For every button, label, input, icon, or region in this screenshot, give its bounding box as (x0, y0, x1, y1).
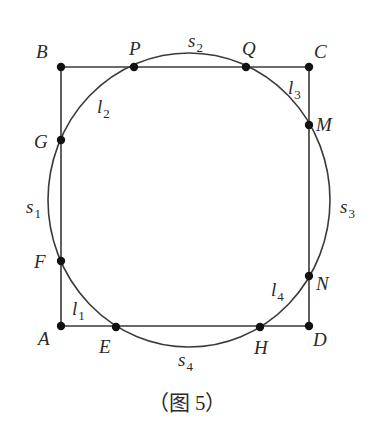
label-s2: s2 (188, 30, 203, 55)
segment-labels: l1l2l3l4s1s2s3s4 (26, 30, 355, 374)
point-b (57, 63, 65, 71)
point-n (305, 272, 313, 280)
point-f (57, 257, 65, 265)
label-s1: s1 (26, 196, 41, 221)
point-q (242, 63, 250, 71)
label-q: Q (242, 38, 256, 59)
figure-caption: （图 5） (148, 391, 227, 415)
point-e (112, 323, 120, 331)
geometry-diagram: ABCDPQGFMNEH l1l2l3l4s1s2s3s4 （图 5） (0, 0, 374, 432)
label-d: D (312, 329, 327, 350)
label-s4: s4 (178, 349, 193, 374)
point-a (57, 322, 65, 330)
label-g: G (34, 131, 48, 152)
label-s3: s3 (340, 196, 355, 221)
point-h (256, 323, 264, 331)
point-m (305, 121, 313, 129)
label-e: E (98, 336, 111, 357)
label-n: N (315, 273, 330, 294)
label-f: F (33, 251, 46, 272)
point-p (130, 63, 138, 71)
point-c (305, 63, 313, 71)
label-l2: l2 (97, 96, 110, 121)
label-m: M (315, 114, 333, 135)
label-a: A (36, 328, 50, 349)
label-l1: l1 (72, 298, 85, 323)
label-c: C (314, 41, 327, 62)
label-p: P (128, 38, 141, 59)
point-g (57, 136, 65, 144)
label-l4: l4 (271, 279, 284, 304)
label-h: H (253, 337, 269, 358)
point-d (305, 322, 313, 330)
label-b: B (36, 41, 48, 62)
